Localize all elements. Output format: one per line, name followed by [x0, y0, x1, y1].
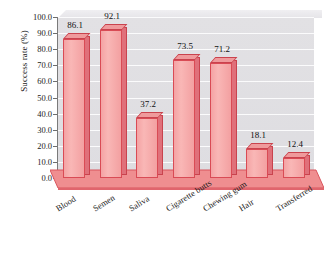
bar-front-face — [283, 158, 305, 178]
bar-saliva — [136, 112, 158, 178]
y-tick-label: 10.0 — [20, 156, 57, 168]
y-tick-mark — [53, 65, 57, 66]
bar-front-face — [100, 30, 122, 178]
y-tick-mark — [53, 130, 57, 131]
bar-front-face — [210, 63, 232, 178]
x-tick-label: Blood — [54, 194, 78, 214]
bar-transferred — [283, 152, 305, 178]
bar-front-face — [246, 149, 268, 178]
y-tick-label: 30.0 — [20, 124, 57, 136]
y-tick-label: 20.0 — [20, 140, 57, 152]
y-tick-mark — [53, 81, 57, 82]
bar-hair — [246, 143, 268, 178]
bar-front-face — [136, 118, 158, 178]
bar-front-face — [173, 60, 195, 178]
y-tick-label: 80.0 — [20, 43, 57, 55]
y-axis-line — [57, 17, 58, 178]
bar-value-label: 86.1 — [56, 20, 94, 30]
bar-chewing-gum — [210, 57, 232, 178]
y-tick-mark — [53, 162, 57, 163]
y-tick-mark — [53, 98, 57, 99]
gridline — [58, 33, 314, 34]
x-tick-label: Hair — [237, 197, 256, 214]
y-tick-label: 90.0 — [20, 27, 57, 39]
y-tick-mark — [53, 33, 57, 34]
y-tick-mark — [53, 49, 57, 50]
y-tick-label: 100.0 — [20, 11, 57, 23]
y-axis-ticks: 100.090.080.070.060.050.040.030.020.010.… — [20, 12, 57, 184]
y-tick-label: 70.0 — [20, 59, 57, 71]
y-tick-mark — [53, 17, 57, 18]
bar-value-label: 73.5 — [166, 41, 204, 51]
bar-value-label: 12.4 — [276, 139, 314, 149]
y-tick-label: 60.0 — [20, 75, 57, 87]
bar-semen — [100, 24, 122, 178]
y-tick-label: 50.0 — [20, 92, 57, 104]
y-tick-mark — [53, 146, 57, 147]
bar-value-label: 92.1 — [93, 11, 131, 21]
bar-value-label: 71.2 — [203, 44, 241, 54]
bar-cigarette-butts — [173, 54, 195, 178]
bar-chart-figure: Success rate (%) 100.090.080.070.060.050… — [0, 0, 330, 253]
bar-blood — [63, 33, 85, 178]
bar-value-label: 18.1 — [239, 130, 277, 140]
x-tick-label: Saliva — [127, 193, 151, 213]
bar-value-label: 37.2 — [129, 99, 167, 109]
y-tick-label: 40.0 — [20, 108, 57, 120]
y-tick-mark — [53, 114, 57, 115]
bar-front-face — [63, 39, 85, 178]
x-tick-label: Semen — [91, 192, 117, 213]
